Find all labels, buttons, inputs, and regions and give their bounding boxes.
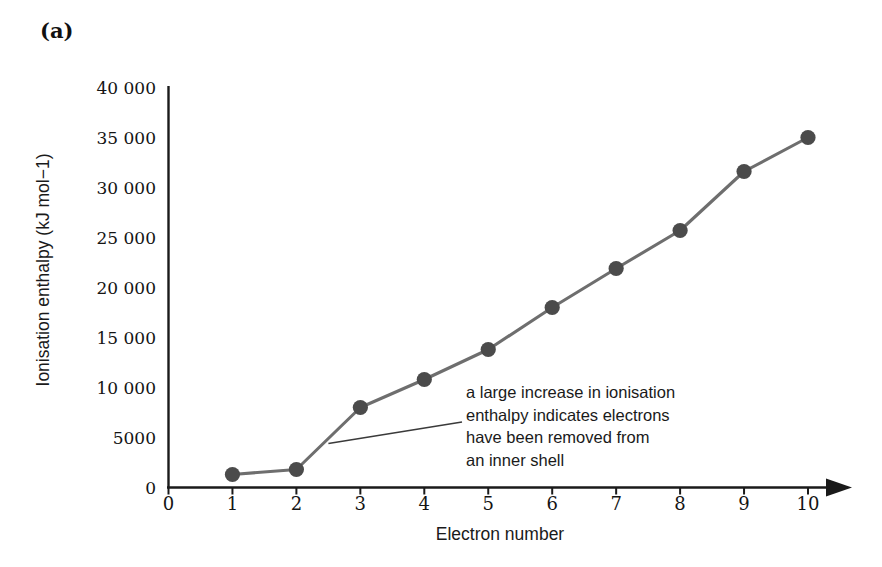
y-axis-tick-label: 35 000 — [64, 129, 156, 147]
y-axis-tick-label: 15 000 — [64, 329, 156, 347]
annotation-leader-line — [328, 422, 462, 444]
x-axis-tick-label: 9 — [724, 494, 764, 514]
annotation-line-3: have been removed from — [466, 426, 766, 449]
y-axis-tick-label: 25 000 — [64, 229, 156, 247]
data-point — [609, 261, 624, 276]
data-point — [481, 342, 496, 357]
annotation-line-4: an inner shell — [466, 449, 766, 472]
x-axis-arrow-icon — [826, 479, 852, 497]
y-axis-tick-label: 5000 — [64, 429, 156, 447]
data-point — [417, 372, 432, 387]
y-axis-title: Ionisation enthalpy (kJ mol−1) — [30, 60, 56, 480]
y-axis-tick-label: 10 000 — [64, 379, 156, 397]
x-axis-tick-label: 4 — [404, 494, 444, 514]
x-axis-tick-label: 1 — [212, 494, 252, 514]
y-axis-tick-label: 0 — [64, 479, 156, 497]
y-axis-tick-label: 40 000 — [64, 79, 156, 97]
x-axis-tick-label: 6 — [532, 494, 572, 514]
x-axis-tick-label: 10 — [788, 494, 828, 514]
x-axis-tick-label: 2 — [276, 494, 316, 514]
x-axis-tick-label: 8 — [660, 494, 700, 514]
x-axis-tick-label: 0 — [149, 494, 189, 514]
data-point — [353, 400, 368, 415]
annotation-text-block: a large increase in ionisation enthalpy … — [466, 381, 766, 471]
x-axis-title: Electron number — [170, 524, 830, 545]
annotation-line-1: a large increase in ionisation — [466, 381, 766, 404]
data-point — [673, 223, 688, 238]
data-point — [800, 130, 815, 145]
y-axis-tick-label: 20 000 — [64, 279, 156, 297]
data-point — [225, 467, 240, 482]
y-axis-tick-label: 30 000 — [64, 179, 156, 197]
data-point — [545, 300, 560, 315]
x-axis-tick-label: 5 — [468, 494, 508, 514]
x-axis-tick-label: 3 — [340, 494, 380, 514]
data-point — [289, 462, 304, 477]
data-point — [736, 164, 751, 179]
annotation-line-2: enthalpy indicates electrons — [466, 404, 766, 427]
figure-panel: (a) Ionisation enthalpy (kJ mol−1) Elect… — [0, 0, 882, 567]
x-axis-tick-label: 7 — [596, 494, 636, 514]
